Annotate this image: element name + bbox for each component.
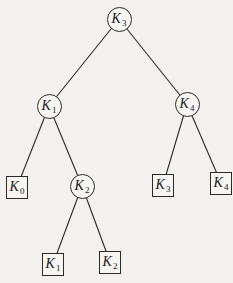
node-letter: K <box>180 96 189 112</box>
node-subscript: 1 <box>52 105 57 115</box>
leaf-k1: K1 <box>42 253 64 276</box>
edge-k3-k4 <box>119 19 187 104</box>
node-k2: K2 <box>70 174 95 199</box>
node-subscript: 3 <box>122 18 127 28</box>
node-letter: K <box>103 254 112 270</box>
node-subscript: 1 <box>56 263 61 273</box>
node-subscript: 2 <box>85 185 90 195</box>
node-letter: K <box>214 175 223 191</box>
leaf-k3: K3 <box>152 174 174 197</box>
tree-edges <box>0 0 233 283</box>
node-letter: K <box>10 179 19 195</box>
edge-k3-k1 <box>49 19 119 106</box>
node-k1: K1 <box>37 94 62 119</box>
leaf-k2: K2 <box>99 251 121 274</box>
leaf-k4: K4 <box>210 172 232 195</box>
node-letter: K <box>46 256 55 272</box>
node-subscript: 2 <box>113 261 118 271</box>
node-subscript: 3 <box>166 184 171 194</box>
node-subscript: 4 <box>224 182 229 192</box>
node-k4: K4 <box>175 92 200 117</box>
node-letter: K <box>42 98 51 114</box>
node-subscript: 4 <box>190 103 195 113</box>
tree-diagram: K3 K1 K4 K2 K0 K3 K4 K1 K2 <box>0 0 233 283</box>
leaf-k0: K0 <box>6 176 28 199</box>
node-subscript: 0 <box>20 186 25 196</box>
node-k3-root: K3 <box>107 7 132 32</box>
node-letter: K <box>75 178 84 194</box>
node-letter: K <box>156 177 165 193</box>
node-letter: K <box>112 11 121 27</box>
